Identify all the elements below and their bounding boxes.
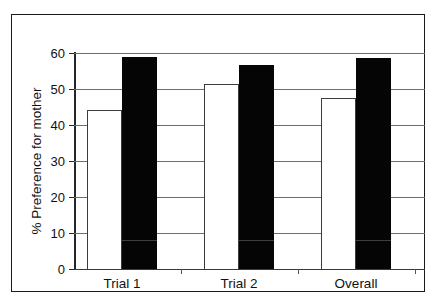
bar-seam-artifact [239, 240, 274, 242]
y-axis-tick-mark [69, 197, 74, 198]
bar-seam-artifact [122, 240, 157, 242]
y-axis-tick-label: 60 [51, 47, 65, 60]
gridline [74, 269, 425, 270]
y-axis-tick-mark [69, 161, 74, 162]
figure-container: % Preference for mother 6050403020100 Tr… [0, 0, 443, 308]
y-axis-tick-mark [69, 269, 74, 270]
bar-overall-filled [356, 58, 391, 269]
figure-frame: % Preference for mother 6050403020100 Tr… [11, 14, 425, 292]
x-axis-label-overall: Overall [335, 277, 378, 291]
x-axis-tick-mark [415, 269, 416, 274]
plot-area: 6050403020100 [74, 53, 425, 269]
x-axis-label-trial-2: Trial 2 [220, 277, 257, 291]
y-axis-tick-label: 40 [51, 119, 65, 132]
y-axis-tick-mark [69, 53, 74, 54]
bar-trial-1-filled [122, 57, 157, 269]
y-axis-tick-label: 50 [51, 83, 65, 96]
y-axis-tick-label: 20 [51, 191, 65, 204]
bar-trial-2-filled [239, 65, 274, 269]
y-axis-title: % Preference for mother [29, 53, 45, 269]
y-axis-tick-label: 0 [58, 263, 65, 276]
y-axis-tick-mark [69, 89, 74, 90]
y-axis-tick-label: 10 [51, 227, 65, 240]
x-axis-tick-mark [298, 269, 299, 274]
bar-trial-2-open [204, 84, 239, 269]
y-axis-tick-label: 30 [51, 155, 65, 168]
bar-trial-1-open [87, 110, 122, 269]
y-axis-tick-mark [69, 233, 74, 234]
x-axis-tick-mark [181, 269, 182, 274]
bar-overall-open [321, 98, 356, 269]
bar-seam-artifact [356, 240, 391, 242]
x-axis-label-trial-1: Trial 1 [103, 277, 140, 291]
y-axis-tick-mark [69, 125, 74, 126]
gridline [74, 53, 425, 54]
